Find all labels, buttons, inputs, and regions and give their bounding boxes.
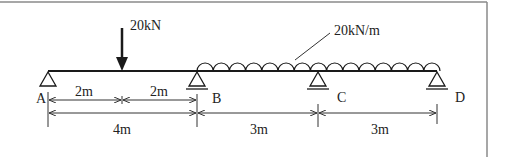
point-load-arrow-icon: [116, 28, 128, 71]
point-load-label: 20kN: [130, 18, 161, 33]
support-c-label: C: [337, 90, 346, 105]
distributed-load-symbol: [197, 63, 440, 71]
beam-diagram: 20kN/m 20kN A B C D 2m 2m: [0, 0, 509, 157]
dimension-label-a-load: 2m: [75, 84, 93, 99]
frame-border: [0, 2, 487, 157]
dimension-label-load-b: 2m: [150, 84, 168, 99]
support-d-label: D: [455, 90, 465, 105]
support-c-roller-icon: [307, 72, 329, 89]
support-a-pin-icon: [40, 72, 56, 86]
dimension-label-ab: 4m: [113, 122, 131, 137]
distributed-load-leader: [295, 33, 330, 60]
support-b-roller-icon: [186, 72, 208, 89]
dimension-label-cd: 3m: [371, 122, 389, 137]
support-b-label: B: [212, 91, 221, 106]
dimension-label-bc: 3m: [250, 122, 268, 137]
support-a-label: A: [36, 91, 47, 106]
distributed-load-label: 20kN/m: [334, 23, 380, 38]
support-d-roller-icon: [426, 72, 448, 89]
